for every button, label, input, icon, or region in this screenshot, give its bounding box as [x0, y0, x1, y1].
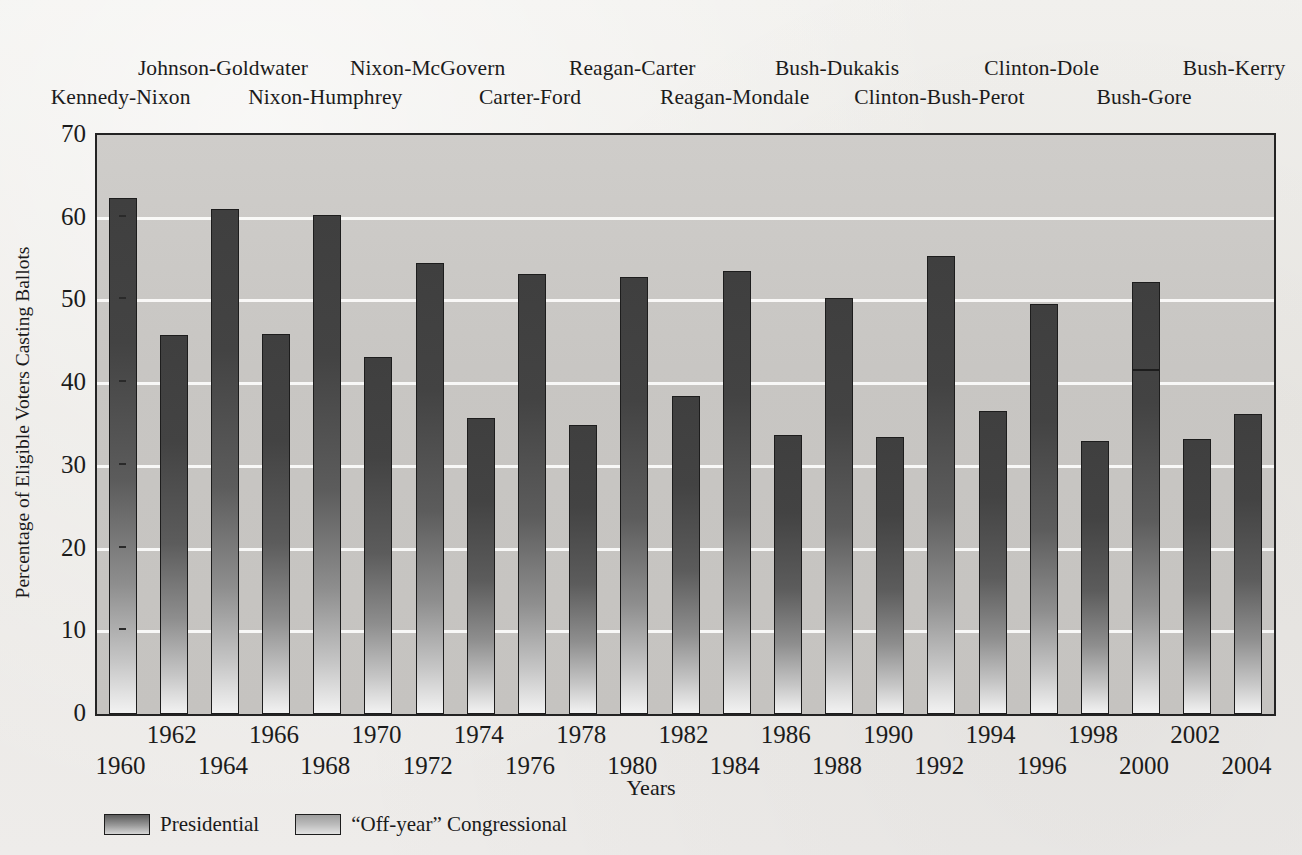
bar [876, 437, 904, 714]
bar-internal-divider [1132, 369, 1160, 371]
election-label: Nixon-McGovern [350, 56, 505, 81]
election-label: Reagan-Carter [569, 56, 696, 81]
y-tick-label: 30 [34, 451, 86, 476]
election-label: Bush-Gore [1096, 85, 1191, 110]
x-tick-label: 1998 [1068, 722, 1118, 747]
gridline [97, 217, 1274, 220]
election-label: Bush-Kerry [1183, 56, 1286, 81]
election-label: Johnson-Goldwater [138, 56, 308, 81]
bar [1081, 441, 1109, 714]
election-label: Clinton-Dole [984, 56, 1099, 81]
y-tick-label: 10 [34, 617, 86, 642]
election-labels-group: Kennedy-NixonJohnson-GoldwaterNixon-Hump… [0, 56, 1302, 122]
x-tick-label: 1990 [863, 722, 913, 747]
x-tick-label: 1970 [351, 722, 401, 747]
y-tick-mark [119, 628, 126, 630]
bar [1234, 414, 1262, 714]
y-tick-label: 70 [34, 121, 86, 146]
bar [774, 435, 802, 714]
bar [1183, 439, 1211, 714]
legend-item-offyear: “Off-year” Congressional [295, 812, 567, 837]
bar [313, 215, 341, 714]
legend-label-offyear: “Off-year” Congressional [351, 812, 567, 837]
legend-label-presidential: Presidential [160, 812, 259, 837]
x-axis-title: Years [0, 775, 1302, 801]
bar [416, 263, 444, 714]
legend-item-presidential: Presidential [104, 812, 259, 837]
election-label: Carter-Ford [479, 85, 581, 110]
bar [825, 298, 853, 714]
election-label: Nixon-Humphrey [248, 85, 402, 110]
election-label: Bush-Dukakis [775, 56, 899, 81]
election-label: Clinton-Bush-Perot [854, 85, 1024, 110]
chart-page: Kennedy-NixonJohnson-GoldwaterNixon-Hump… [0, 0, 1302, 855]
bar [569, 425, 597, 715]
bar [979, 411, 1007, 714]
y-tick-mark [119, 297, 126, 299]
bar [620, 277, 648, 714]
chart-legend: Presidential“Off-year” Congressional [104, 812, 567, 837]
bar [927, 256, 955, 714]
bar [1030, 304, 1058, 714]
x-tick-label: 1994 [966, 722, 1016, 747]
x-tick-label: 2002 [1170, 722, 1220, 747]
x-tick-label: 1966 [249, 722, 299, 747]
bar [109, 198, 137, 714]
x-tick-label: 1962 [147, 722, 197, 747]
bar [467, 418, 495, 714]
x-axis-ticks-group: 1960196219641966196819701972197419761978… [0, 716, 1302, 776]
x-tick-label: 1982 [659, 722, 709, 747]
y-tick-mark [119, 463, 126, 465]
bar [262, 334, 290, 714]
legend-swatch-presidential [104, 814, 150, 835]
bar [723, 271, 751, 714]
bar [518, 274, 546, 714]
plot-area [95, 133, 1276, 716]
y-tick-label: 40 [34, 369, 86, 394]
gridline [97, 299, 1274, 302]
election-label: Reagan-Mondale [660, 85, 809, 110]
x-tick-label: 1986 [761, 722, 811, 747]
plot-inner [97, 135, 1274, 714]
bar [672, 396, 700, 714]
x-tick-label: 1974 [454, 722, 504, 747]
bar [364, 357, 392, 714]
y-tick-mark [119, 215, 126, 217]
legend-swatch-offyear [295, 814, 341, 835]
bar [211, 209, 239, 714]
x-tick-label: 1978 [556, 722, 606, 747]
y-tick-label: 50 [34, 286, 86, 311]
y-tick-label: 60 [34, 203, 86, 228]
y-tick-mark [119, 380, 126, 382]
y-tick-mark [119, 546, 126, 548]
y-tick-label: 20 [34, 534, 86, 559]
bar [1132, 282, 1160, 714]
bar [160, 335, 188, 714]
